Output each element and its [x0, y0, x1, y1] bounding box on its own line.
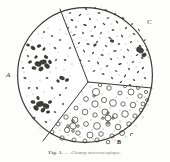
- caption-dash: —: [65, 150, 70, 155]
- caption-text: Champ microscopique.: [71, 150, 121, 155]
- sector-label-C: C: [147, 19, 152, 26]
- sector-label-B: B: [117, 139, 121, 145]
- caption-number: Fig. 1.: [48, 150, 63, 155]
- figure-root: A C B Fig. 1. — Champ microscopique.: [0, 0, 170, 162]
- sector-label-A: A: [6, 72, 10, 79]
- microscope-field-plate: [0, 0, 170, 148]
- figure-caption: Fig. 1. — Champ microscopique.: [0, 150, 170, 155]
